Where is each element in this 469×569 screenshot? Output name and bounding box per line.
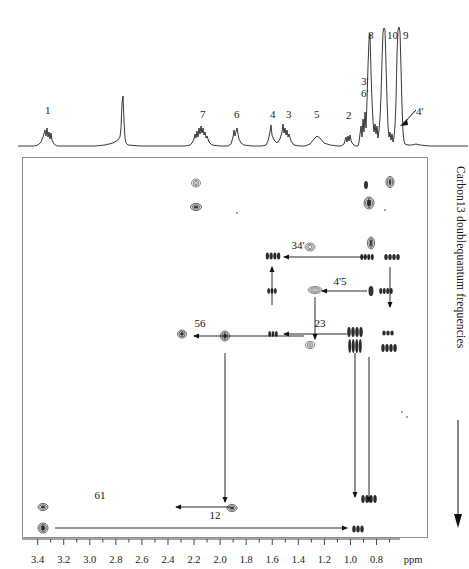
correlation-label-34p: 34'	[292, 239, 305, 251]
x-tick-label-1.8: 1.8	[240, 554, 253, 565]
x-tick-label-2.6: 2.6	[135, 554, 148, 565]
y-axis-label: Carbon13 doublequantum frequencies	[451, 166, 467, 416]
peak-label-5: 5	[314, 109, 320, 120]
x-tick-label-0.8: 0.8	[370, 554, 383, 565]
x-tick-label-1.6: 1.6	[266, 554, 279, 565]
peak-label-3: 3	[286, 109, 292, 120]
x-tick-label-3.4: 3.4	[31, 554, 44, 565]
peak-label-3p: 3'	[361, 76, 368, 87]
peak-label-2: 2	[346, 110, 352, 121]
correlation-labels: 34'4'523566112	[95, 239, 347, 521]
correlation-label-61: 61	[95, 489, 106, 501]
x-axis-ticks	[38, 539, 390, 545]
x-tick-label-2.0: 2.0	[214, 554, 227, 565]
peak-label-4: 4	[270, 109, 276, 120]
correlation-label-23: 23	[315, 317, 327, 329]
correlation-label-56: 56	[195, 317, 207, 329]
x-axis	[0, 536, 469, 552]
peak-label-8: 8	[368, 30, 374, 41]
correlation-arrows	[55, 257, 390, 528]
peak-4prime-pointer-icon	[398, 108, 420, 130]
x-tick-label-1.2: 1.2	[318, 554, 331, 565]
x-tick-label-3.0: 3.0	[83, 554, 96, 565]
figure-root: 17643523'6'81094'	[0, 0, 469, 569]
correlation-annotation-layer: 34'4'523566112	[22, 157, 428, 538]
peak-label-6: 6	[234, 109, 240, 120]
peak-label-7: 7	[200, 109, 206, 120]
x-tick-label-2.4: 2.4	[161, 554, 174, 565]
x-tick-label-1.4: 1.4	[292, 554, 305, 565]
x-tick-label-1.0: 1.0	[344, 554, 357, 565]
peak-label-10: 10	[387, 30, 398, 41]
correlation-label-4p5: 4'5	[334, 275, 347, 287]
x-tick-label-2.8: 2.8	[109, 554, 122, 565]
correlation-label-12: 12	[210, 509, 221, 521]
x-tick-label-3.2: 3.2	[57, 554, 70, 565]
x-tick-label-2.2: 2.2	[187, 554, 200, 565]
x-axis-unit-label: ppm	[404, 554, 423, 565]
peak-label-9: 9	[403, 30, 409, 41]
peak-label-6p: 6'	[361, 88, 368, 99]
proton-1d-spectrum	[0, 6, 469, 152]
y-axis-direction-arrow	[451, 420, 465, 530]
peak-label-1: 1	[45, 105, 51, 116]
